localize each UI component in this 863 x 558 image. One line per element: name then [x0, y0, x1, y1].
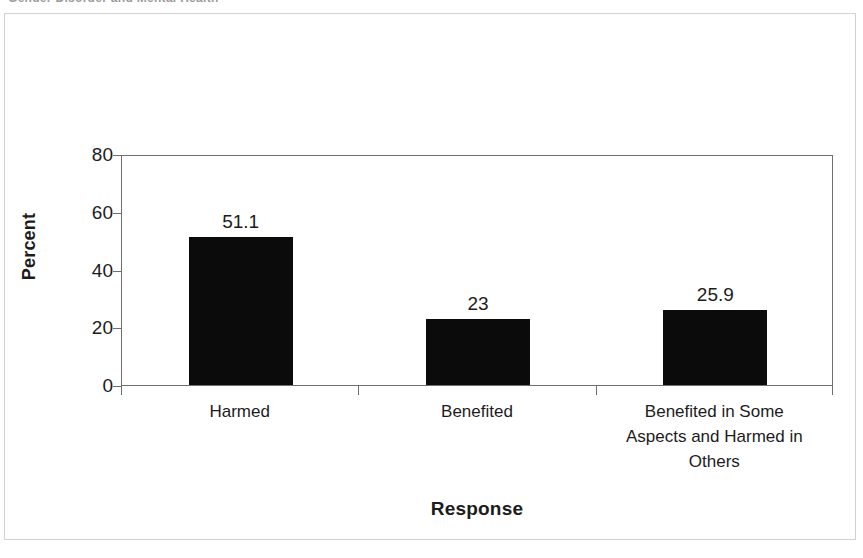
bar-value-label: 51.1 — [181, 211, 301, 233]
y-axis-tick-label: 0 — [69, 375, 113, 397]
y-axis-tick-label: 80 — [69, 144, 113, 166]
category-label-line: Harmed — [125, 399, 354, 424]
x-axis-category-label: Benefited — [362, 399, 591, 424]
figure-frame: Percent 020406080 51.12325.9 HarmedBenef… — [4, 13, 856, 540]
category-label-line: Benefited in Some — [600, 399, 829, 424]
y-axis-ticks — [113, 155, 121, 386]
y-axis-tick-label: 60 — [69, 202, 113, 224]
y-axis-tick-mark — [113, 271, 121, 272]
y-axis-tick-mark — [113, 386, 121, 387]
x-axis-category-labels: HarmedBenefitedBenefited in SomeAspects … — [121, 399, 833, 495]
bar-chart: Percent 020406080 51.12325.9 HarmedBenef… — [5, 14, 857, 541]
clipped-page-header: Gender Disorder and Mental Health — [8, 0, 308, 5]
x-axis-category-label: Benefited in SomeAspects and Harmed inOt… — [600, 399, 829, 474]
y-axis-tick-label: 40 — [69, 260, 113, 282]
category-label-line: Aspects and Harmed in — [600, 424, 829, 449]
y-axis-tick-mark — [113, 155, 121, 156]
plot-area: 51.12325.9 — [121, 155, 833, 386]
y-axis-tick-labels: 020406080 — [61, 155, 113, 386]
category-label-line: Others — [600, 449, 829, 474]
x-axis-category-label: Harmed — [125, 399, 354, 424]
bar — [426, 319, 530, 385]
bar-value-label: 25.9 — [655, 284, 775, 306]
x-axis-ticks — [121, 386, 833, 395]
x-axis-tick-mark — [832, 386, 833, 395]
bar-value-label: 23 — [418, 293, 538, 315]
y-axis-tick-mark — [113, 213, 121, 214]
x-axis-title: Response — [121, 498, 833, 520]
bar — [189, 237, 293, 385]
x-axis-tick-mark — [596, 386, 597, 395]
x-axis-tick-mark — [121, 386, 122, 395]
y-axis-title: Percent — [19, 199, 40, 295]
y-axis-tick-label: 20 — [69, 317, 113, 339]
x-axis-tick-mark — [358, 386, 359, 395]
category-label-line: Benefited — [362, 399, 591, 424]
bar — [663, 310, 767, 385]
y-axis-tick-mark — [113, 328, 121, 329]
